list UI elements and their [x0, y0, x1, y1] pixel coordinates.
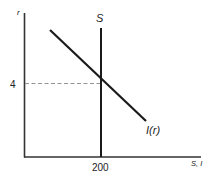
x-tick-label: 200 [92, 162, 109, 173]
chart-canvas: r S 4 200 I(r) S, I [0, 0, 217, 181]
y-tick-label: 4 [10, 79, 16, 90]
y-axis-label: r [17, 8, 20, 17]
i-curve [50, 30, 146, 121]
s-curve-label: S [96, 12, 104, 24]
i-curve-label: I(r) [146, 124, 160, 136]
x-axis-label: S, I [191, 159, 202, 168]
